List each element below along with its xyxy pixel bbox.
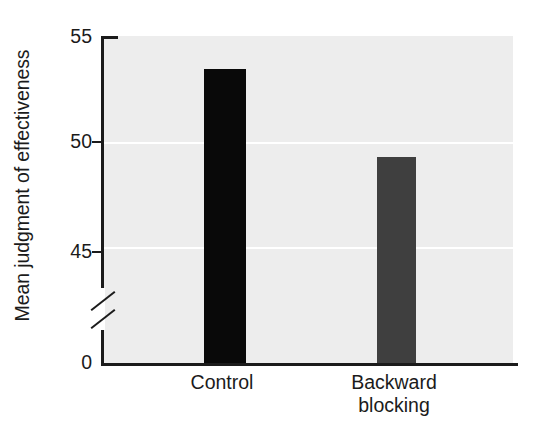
x-tick-label-backward-blocking: Backward blocking xyxy=(322,371,466,416)
x-tick-backward-line1: Backward xyxy=(322,371,466,394)
bar-chart-figure: Mean judgment of effectiveness 55 50 45 … xyxy=(0,0,539,431)
gridline-50 xyxy=(104,142,513,144)
y-axis-break-marks xyxy=(88,288,118,330)
plot-area xyxy=(101,36,513,363)
y-tick-50-mark xyxy=(92,141,101,143)
x-tick-backward-line2: blocking xyxy=(322,394,466,417)
bar-backward-blocking xyxy=(377,157,416,363)
y-axis-top-cap xyxy=(101,36,118,39)
y-tick-45-mark xyxy=(92,251,101,253)
y-axis-title-label: Mean judgment of effectiveness xyxy=(12,49,35,321)
y-tick-55-label: 55 xyxy=(46,27,92,47)
y-tick-0-label: 0 xyxy=(46,353,92,373)
y-axis-title: Mean judgment of effectiveness xyxy=(0,0,46,370)
y-tick-50-label: 50 xyxy=(46,132,92,152)
gridline-45 xyxy=(104,247,513,249)
x-axis-line xyxy=(101,363,518,366)
x-tick-control-line1: Control xyxy=(152,371,292,394)
x-tick-label-control: Control xyxy=(152,371,292,394)
axis-break-mask xyxy=(101,288,105,330)
bar-control xyxy=(204,69,246,364)
y-tick-45-label: 45 xyxy=(46,242,92,262)
